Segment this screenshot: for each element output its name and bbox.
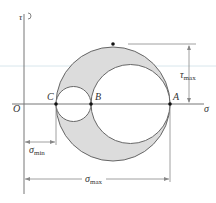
label-c: C: [47, 91, 54, 102]
sigma-min-label: σmin: [29, 144, 45, 157]
tau-axis-label: τ: [19, 12, 23, 22]
rotation-arrow-icon: [28, 13, 31, 19]
point-c: [54, 102, 58, 106]
label-a: A: [172, 91, 180, 102]
tau-max-point: [111, 42, 115, 46]
sigma-axis-label: σ: [204, 103, 210, 114]
sigma-max-label: σmax: [85, 173, 102, 186]
label-b: B: [95, 91, 101, 102]
origin-label: O: [13, 103, 20, 114]
point-a: [168, 102, 172, 106]
mohr-circle-diagram: τ σ O C B A τmax σmin σmax: [0, 0, 216, 203]
tau-max-label: τmax: [180, 69, 196, 82]
point-b: [89, 102, 93, 106]
